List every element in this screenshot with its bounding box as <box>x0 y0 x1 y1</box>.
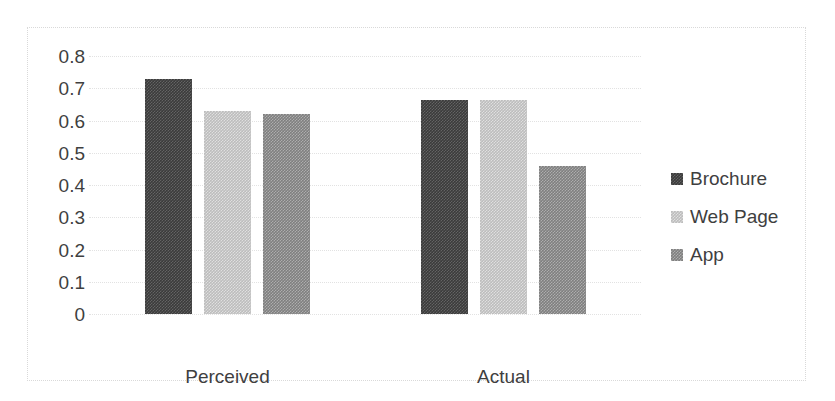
y-axis-tick-label: 0.4 <box>37 176 85 195</box>
y-axis-tick-label: 0.3 <box>37 208 85 227</box>
legend-swatch-icon <box>671 249 683 261</box>
x-axis-category-label: Perceived <box>185 366 270 388</box>
legend-label: App <box>690 244 724 266</box>
plot-area <box>89 56 641 314</box>
y-axis-tick-label: 0.8 <box>37 47 85 66</box>
chart-frame: 0.80.70.60.50.40.30.20.10 PerceivedActua… <box>27 27 806 381</box>
y-axis-tick-label: 0.6 <box>37 111 85 130</box>
y-axis-tick-label: 0.1 <box>37 272 85 291</box>
gridline <box>89 314 641 315</box>
legend-label: Brochure <box>690 168 767 190</box>
legend-swatch-icon <box>671 173 683 185</box>
bar-app-perceived <box>263 114 310 314</box>
y-axis-tick-label: 0 <box>37 305 85 324</box>
gridline <box>89 56 641 57</box>
y-axis: 0.80.70.60.50.40.30.20.10 <box>33 56 85 314</box>
chart-legend: BrochureWeb PageApp <box>671 160 801 274</box>
legend-swatch-icon <box>671 211 683 223</box>
legend-item-web-page[interactable]: Web Page <box>671 198 801 236</box>
legend-label: Web Page <box>690 206 778 228</box>
legend-item-app[interactable]: App <box>671 236 801 274</box>
x-axis: PerceivedActual <box>89 320 641 354</box>
y-axis-tick-label: 0.5 <box>37 143 85 162</box>
bar-web-page-perceived <box>204 111 251 314</box>
x-axis-category-label: Actual <box>477 366 530 388</box>
bar-app-actual <box>539 166 586 314</box>
y-axis-tick-label: 0.2 <box>37 240 85 259</box>
y-axis-tick-label: 0.7 <box>37 79 85 98</box>
bar-web-page-actual <box>480 100 527 314</box>
bar-brochure-actual <box>421 100 468 314</box>
legend-item-brochure[interactable]: Brochure <box>671 160 801 198</box>
bar-brochure-perceived <box>145 79 192 314</box>
